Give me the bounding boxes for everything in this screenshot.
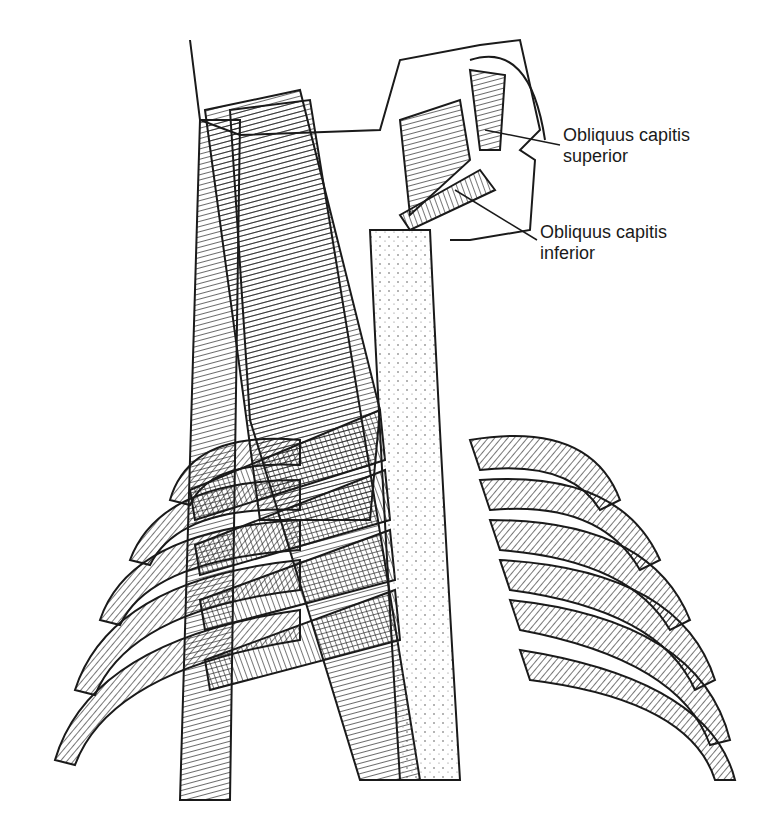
label-line-1: Obliquus capitis bbox=[540, 222, 667, 243]
anatomical-illustration bbox=[0, 0, 762, 824]
label-line-2: superior bbox=[563, 146, 690, 167]
label-obliquus-capitis-superior: Obliquus capitis superior bbox=[563, 125, 690, 167]
label-obliquus-capitis-inferior: Obliquus capitis inferior bbox=[540, 222, 667, 264]
suboccipital-muscles bbox=[400, 70, 505, 230]
leader-line-inferior bbox=[455, 190, 537, 240]
label-line-1: Obliquus capitis bbox=[563, 125, 690, 146]
ribs-right bbox=[470, 436, 735, 780]
label-line-2: inferior bbox=[540, 243, 667, 264]
